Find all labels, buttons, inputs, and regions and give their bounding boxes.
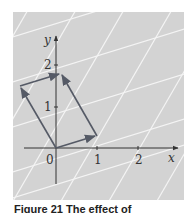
x-tick-label-2: 2 — [135, 153, 143, 167]
x-tick-label-1: 1 — [94, 153, 102, 167]
figure-caption: Figure 21 The effect of — [14, 203, 131, 213]
x-axis-label: x — [168, 151, 175, 165]
y-tick-label-1: 1 — [44, 100, 52, 114]
x-tick-label-0: 0 — [46, 153, 54, 167]
y-axis-label: y — [43, 33, 51, 47]
vector-diagram: 0 1 2 1 2 x y — [0, 0, 196, 213]
y-tick-label-2: 2 — [44, 58, 52, 72]
